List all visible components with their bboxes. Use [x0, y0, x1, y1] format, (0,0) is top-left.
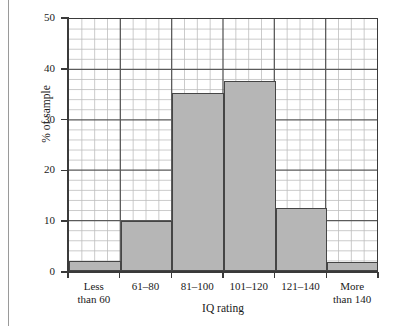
x-axis-title: IQ rating: [68, 302, 378, 314]
y-tick-label: 0: [15, 265, 55, 277]
bar-series: [69, 19, 377, 271]
plot-area: [68, 18, 378, 272]
y-tick: [61, 119, 67, 121]
y-tick: [61, 170, 67, 172]
y-tick: [61, 17, 67, 19]
y-tick-label: 10: [15, 214, 55, 226]
x-tick: [119, 272, 121, 278]
x-tick-label-2: 61–80: [120, 280, 172, 293]
iq-histogram-figure: 01020304050 % of sample Less than 6061–8…: [0, 0, 403, 326]
bar-3: [172, 93, 224, 271]
bar-4: [224, 81, 276, 272]
x-tick: [171, 272, 173, 278]
x-tick: [222, 272, 224, 278]
y-axis-title: % of sample: [40, 54, 52, 174]
page-edge-rule: [8, 0, 9, 326]
y-axis-line: [67, 17, 69, 273]
x-tick: [67, 272, 69, 278]
bar-1: [69, 261, 121, 271]
bar-5: [276, 208, 328, 272]
x-tick-label-4: 101–120: [223, 280, 275, 293]
x-tick: [326, 272, 328, 278]
x-tick-label-3: 81–100: [171, 280, 223, 293]
bar-6: [327, 262, 378, 271]
bar-2: [121, 221, 173, 271]
x-tick-label-5: 121–140: [275, 280, 327, 293]
y-tick: [61, 68, 67, 70]
x-tick: [274, 272, 276, 278]
x-tick: [377, 272, 379, 278]
y-tick-label: 50: [15, 11, 55, 23]
y-tick: [61, 220, 67, 222]
